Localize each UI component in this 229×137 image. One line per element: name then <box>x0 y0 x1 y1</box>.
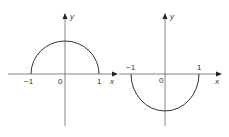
graph-upper-semicircle: y x −1 0 1 <box>8 12 118 126</box>
y-axis-arrow-icon <box>163 13 168 19</box>
tick-label-origin: 0 <box>58 77 63 86</box>
x-axis-arrow-icon <box>112 72 118 77</box>
y-axis-label: y <box>69 12 75 21</box>
x-axis-label: x <box>109 77 115 86</box>
x-axis-label: x <box>214 77 220 86</box>
tick-label-neg-one: −1 <box>126 63 136 72</box>
graph-lower-semicircle: y x −1 0 1 <box>119 12 222 126</box>
tick-label-neg-one: −1 <box>24 77 34 86</box>
x-axis-arrow-icon <box>216 72 222 77</box>
tick-label-one: 1 <box>197 63 202 72</box>
y-axis-arrow-icon <box>63 13 68 19</box>
tick-label-origin: 0 <box>159 76 164 85</box>
diagram-canvas: y x −1 0 1 y x −1 0 1 <box>0 0 229 137</box>
tick-label-one: 1 <box>97 77 102 86</box>
y-axis-label: y <box>169 12 175 21</box>
